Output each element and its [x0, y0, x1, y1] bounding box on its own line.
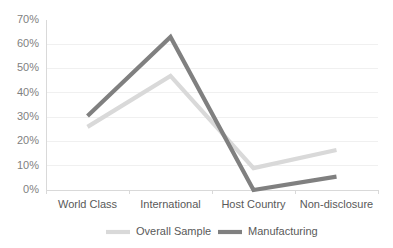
y-axis-tick-labels: 70% 60% 50% 40% 30% 20% 10% 0%	[17, 13, 39, 195]
y-tick-label: 70%	[17, 13, 39, 25]
x-tick-label: World Class	[58, 198, 118, 210]
series-manufacturing	[88, 37, 337, 190]
y-tick-label: 40%	[17, 86, 39, 98]
y-tick-label: 10%	[17, 159, 39, 171]
x-axis	[46, 190, 378, 194]
y-tick-label: 30%	[17, 110, 39, 122]
line-chart: 70% 60% 50% 40% 30% 20% 10% 0% World Cla…	[0, 0, 393, 248]
x-tick-label: International	[140, 198, 201, 210]
legend-item-label: Manufacturing	[248, 225, 318, 237]
x-axis-tick-labels: World Class International Host Country N…	[58, 198, 373, 210]
chart-legend: Overall Sample Manufacturing	[106, 225, 318, 237]
y-tick-label: 50%	[17, 61, 39, 73]
x-tick-label: Non-disclosure	[300, 198, 373, 210]
series-overall-sample	[88, 76, 337, 168]
x-tick-label: Host Country	[221, 198, 286, 210]
legend-item-manufacturing[interactable]: Manufacturing	[218, 225, 318, 237]
y-tick-label: 20%	[17, 134, 39, 146]
line-series-path	[88, 76, 337, 168]
chart-canvas: 70% 60% 50% 40% 30% 20% 10% 0% World Cla…	[0, 0, 393, 248]
legend-item-overall-sample[interactable]: Overall Sample	[106, 225, 211, 237]
line-series-path	[88, 37, 337, 190]
y-tick-label: 0%	[23, 183, 39, 195]
legend-item-label: Overall Sample	[136, 225, 211, 237]
y-tick-label: 60%	[17, 37, 39, 49]
